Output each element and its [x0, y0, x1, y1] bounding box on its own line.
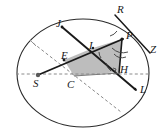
- point-label-L: L: [140, 84, 146, 95]
- point-label-R: R: [117, 4, 124, 15]
- point-label-J: J: [56, 18, 61, 29]
- point-dot-P: [120, 37, 123, 40]
- point-label-H: H: [120, 64, 128, 75]
- point-label-Z: Z: [150, 44, 156, 55]
- angle-arc-at-P-upper: [110, 31, 117, 36]
- point-label-C: C: [67, 79, 74, 90]
- point-label-I: I: [89, 40, 93, 51]
- point-dot-J: [61, 26, 64, 29]
- point-dot-L: [134, 88, 137, 91]
- point-label-E: E: [61, 50, 68, 61]
- arc-marker-upper-left: [30, 40, 36, 46]
- geometry-figure: R J P Z I E H S C L: [0, 0, 166, 139]
- figure-canvas: [0, 0, 166, 139]
- point-label-S: S: [33, 78, 39, 89]
- point-label-P: P: [126, 30, 133, 41]
